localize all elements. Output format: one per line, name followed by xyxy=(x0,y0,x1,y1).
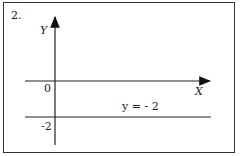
line-equation-label: y = - 2 xyxy=(122,101,159,112)
origin-label: 0 xyxy=(44,83,51,94)
problem-number: 2. xyxy=(11,10,22,21)
y-axis-label: Y xyxy=(40,25,47,36)
x-axis-label: X xyxy=(195,86,203,97)
coordinate-plot xyxy=(0,0,241,156)
tick-label-minus-2: -2 xyxy=(41,121,52,132)
